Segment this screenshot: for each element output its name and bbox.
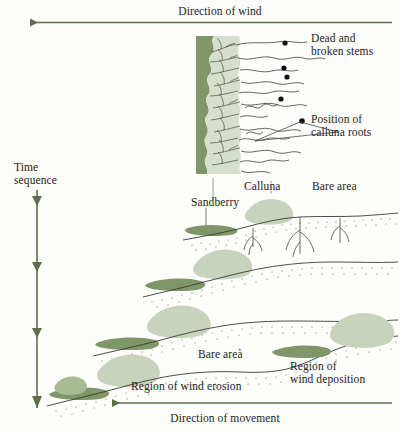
time-arrow-head-2 xyxy=(32,262,42,272)
black-dot-icon xyxy=(278,96,283,101)
black-dot-icon xyxy=(284,74,289,79)
diagram-canvas: Direction of wind Dead and broken stems … xyxy=(0,0,401,434)
diagram-svg xyxy=(0,0,401,434)
direction-of-movement-label: Direction of movement xyxy=(140,412,310,425)
bare-area-bottom-label: Bare areà xyxy=(198,348,243,361)
wind-erosion-label: Region of wind erosion xyxy=(131,380,241,393)
stage-5-remnant xyxy=(54,377,87,395)
time-arrow-head-1 xyxy=(32,196,42,206)
dead-stems-label-line2: broken stems xyxy=(311,45,373,58)
bare-area-top-label: Bare area xyxy=(312,180,357,193)
sandberry-blob-5 xyxy=(272,346,331,359)
stage-2-dune xyxy=(143,250,398,308)
calluna-roots-label-line2: calluna roots xyxy=(311,126,371,139)
time-arrow-head-3 xyxy=(32,328,42,338)
direction-of-wind-label: Direction of wind xyxy=(140,5,300,18)
sandberry-label: Sandberry xyxy=(191,196,239,209)
calluna-mound-3 xyxy=(147,306,211,339)
wind-deposition-label-line2: wind deposition xyxy=(290,373,365,386)
calluna-roots-label-line1: Position of xyxy=(311,113,362,126)
calluna-mound-5 xyxy=(330,313,394,348)
remnant-blob xyxy=(54,377,87,395)
time-sequence-arrow-group xyxy=(32,190,42,408)
calluna-mound-2 xyxy=(193,250,252,280)
dead-stems-group xyxy=(236,41,325,173)
wind-deposition-label-line1: Region of xyxy=(290,360,337,373)
calluna-root-markers-group xyxy=(278,40,304,123)
time-arrow-head-4 xyxy=(32,396,42,408)
time-sequence-label-line1: Time xyxy=(14,161,38,174)
calluna-label: Calluna xyxy=(244,180,280,193)
calluna-mound-1 xyxy=(245,199,293,225)
black-dot-icon xyxy=(282,40,287,45)
black-dot-icon xyxy=(281,65,286,70)
deposition-lobe xyxy=(272,313,394,358)
time-sequence-label-line2: sequence xyxy=(14,174,57,187)
dead-stems-label-line1: Dead and xyxy=(311,32,356,45)
